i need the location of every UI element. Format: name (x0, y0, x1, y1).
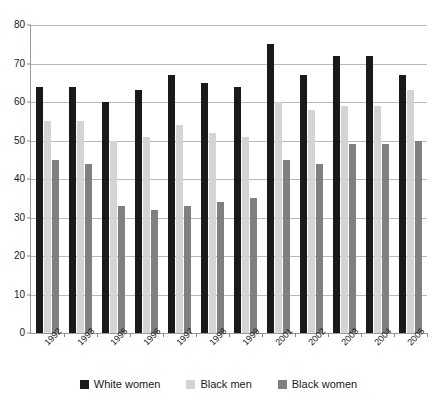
bar[interactable] (316, 164, 323, 333)
bar[interactable] (85, 164, 92, 333)
bar[interactable] (341, 106, 348, 333)
y-tick-label: 10 (14, 290, 25, 300)
y-tick-label: 40 (14, 174, 25, 184)
bar-group[interactable] (262, 25, 295, 333)
y-tick-label: 50 (14, 136, 25, 146)
bar[interactable] (349, 144, 356, 333)
x-tick-mark (64, 333, 65, 337)
y-tick-label: 30 (14, 213, 25, 223)
y-tick-label: 70 (14, 59, 25, 69)
x-tick-mark (295, 333, 296, 337)
y-tick-label: 80 (14, 20, 25, 30)
bar-group[interactable] (361, 25, 394, 333)
bar[interactable] (209, 133, 216, 333)
bar[interactable] (242, 137, 249, 333)
bar-group[interactable] (196, 25, 229, 333)
bar[interactable] (407, 90, 414, 333)
bar[interactable] (151, 210, 158, 333)
bar[interactable] (102, 102, 109, 333)
bar[interactable] (374, 106, 381, 333)
bar[interactable] (168, 75, 175, 333)
bar[interactable] (366, 56, 373, 333)
bar[interactable] (300, 75, 307, 333)
bar[interactable] (52, 160, 59, 333)
legend-label: Black men (200, 379, 251, 390)
bar[interactable] (333, 56, 340, 333)
y-tick-label: 20 (14, 251, 25, 261)
bar[interactable] (143, 137, 150, 333)
bar-group[interactable] (130, 25, 163, 333)
bar-group[interactable] (229, 25, 262, 333)
bar-group[interactable] (97, 25, 130, 333)
bar[interactable] (135, 90, 142, 333)
x-tick-mark (361, 333, 362, 337)
bar[interactable] (283, 160, 290, 333)
bar[interactable] (184, 206, 191, 333)
bar-group[interactable] (394, 25, 427, 333)
y-tick-label: 60 (14, 97, 25, 107)
legend-label: Black women (292, 379, 357, 390)
x-tick-mark (163, 333, 164, 337)
bar[interactable] (217, 202, 224, 333)
legend-label: White women (94, 379, 161, 390)
bar[interactable] (308, 110, 315, 333)
x-tick-mark (328, 333, 329, 337)
legend-item[interactable]: Black women (278, 379, 357, 390)
x-tick-mark (196, 333, 197, 337)
bar[interactable] (399, 75, 406, 333)
chart-legend: White womenBlack menBlack women (0, 379, 437, 390)
bar[interactable] (77, 121, 84, 333)
bar[interactable] (415, 141, 422, 334)
plot-area: 01020304050607080 (30, 25, 427, 334)
bar-group[interactable] (64, 25, 97, 333)
x-tick-mark (394, 333, 395, 337)
bar-chart: 01020304050607080 1992199319951996199719… (0, 0, 437, 400)
bar[interactable] (36, 87, 43, 333)
x-tick-mark (262, 333, 263, 337)
bar[interactable] (118, 206, 125, 333)
bar[interactable] (275, 102, 282, 333)
legend-item[interactable]: White women (80, 379, 161, 390)
bar-group[interactable] (328, 25, 361, 333)
legend-swatch-icon (278, 380, 287, 389)
legend-swatch-icon (186, 380, 195, 389)
bar[interactable] (110, 141, 117, 334)
bar[interactable] (176, 125, 183, 333)
x-tick-mark (130, 333, 131, 337)
bar[interactable] (234, 87, 241, 333)
bar-group[interactable] (295, 25, 328, 333)
legend-swatch-icon (80, 380, 89, 389)
bar[interactable] (201, 83, 208, 333)
bar[interactable] (44, 121, 51, 333)
bar[interactable] (382, 144, 389, 333)
legend-item[interactable]: Black men (186, 379, 251, 390)
bar-group[interactable] (163, 25, 196, 333)
bar[interactable] (69, 87, 76, 333)
x-tick-mark (229, 333, 230, 337)
x-tick-mark (97, 333, 98, 337)
y-tick-label: 0 (19, 328, 25, 338)
x-tick-mark (427, 333, 428, 337)
bar[interactable] (250, 198, 257, 333)
bar-group[interactable] (31, 25, 64, 333)
bar[interactable] (267, 44, 274, 333)
bars-layer (31, 25, 427, 333)
